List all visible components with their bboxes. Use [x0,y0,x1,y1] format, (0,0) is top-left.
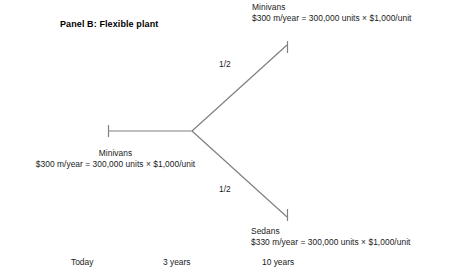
node-label-left-name: Minivans [8,148,223,159]
timeline-label-3-years: 3 years [163,257,190,267]
page-title: Panel B: Flexible plant [60,19,158,29]
node-label-left-value: $300 m/year = 300,000 units × $1,000/uni… [8,159,223,170]
node-label-top-minivans: Minivans $300 m/year = 300,000 units × $… [252,2,411,23]
node-label-bottom-name: Sedans [251,226,410,237]
decision-tree-diagram: Panel B: Flexible plant Minivans $300 m/… [0,0,471,280]
node-label-top-name: Minivans [252,2,411,13]
probability-label-bottom: 1/2 [219,184,231,194]
branch-line-top [192,45,287,131]
timeline-label-10-years: 10 years [262,257,294,267]
node-label-bottom-sedans: Sedans $330 m/year = 300,000 units × $1,… [251,226,410,247]
node-label-left-minivans: Minivans $300 m/year = 300,000 units × $… [8,148,223,169]
timeline-label-today: Today [71,257,93,267]
branch-line-bottom [192,131,287,217]
probability-label-top: 1/2 [219,59,231,69]
node-label-bottom-value: $330 m/year = 300,000 units × $1,000/uni… [251,237,410,248]
node-label-top-value: $300 m/year = 300,000 units × $1,000/uni… [252,13,411,24]
